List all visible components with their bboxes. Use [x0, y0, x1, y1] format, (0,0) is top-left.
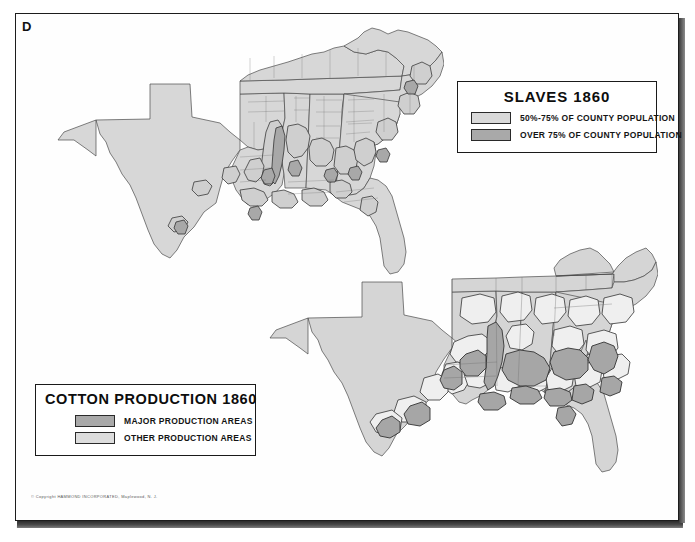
swatch-50-75-icon	[471, 112, 511, 124]
cotton-legend-title: COTTON PRODUCTION 1860	[45, 392, 246, 407]
slaves-legend-row-over-75: OVER 75% OF COUNTY POPULATION	[467, 129, 647, 141]
copyright-notice: © Copyright HAMMOND INCORPORATED, Maplew…	[31, 494, 158, 499]
state-texas	[58, 84, 240, 258]
panel-letter: D	[22, 19, 32, 34]
slaves-legend-label-50-75: 50%-75% OF COUNTY POPULATION	[520, 113, 675, 123]
cotton-legend-row-other: OTHER PRODUCTION AREAS	[45, 432, 246, 444]
state-tennessee	[452, 274, 614, 292]
cotton-production-1860-map	[258, 238, 658, 523]
slaves-legend-row-50-75: 50%-75% OF COUNTY POPULATION	[467, 112, 647, 124]
map-plate-page: D	[0, 0, 695, 542]
cotton-legend-label-other: OTHER PRODUCTION AREAS	[124, 433, 252, 443]
slaves-legend: SLAVES 1860 50%-75% OF COUNTY POPULATION…	[457, 81, 657, 153]
plate-shadow-right	[679, 18, 685, 523]
slaves-legend-title: SLAVES 1860	[467, 89, 647, 104]
cotton-legend-label-major: MAJOR PRODUCTION AREAS	[124, 416, 253, 426]
state-texas	[270, 282, 452, 456]
swatch-major-production-icon	[75, 415, 115, 427]
state-kentucky	[240, 46, 404, 81]
slaves-legend-label-over-75: OVER 75% OF COUNTY POPULATION	[520, 130, 682, 140]
swatch-over-75-icon	[471, 129, 511, 141]
swatch-other-production-icon	[75, 432, 115, 444]
cotton-legend-row-major: MAJOR PRODUCTION AREAS	[45, 415, 246, 427]
cotton-legend: COTTON PRODUCTION 1860 MAJOR PRODUCTION …	[35, 384, 256, 456]
